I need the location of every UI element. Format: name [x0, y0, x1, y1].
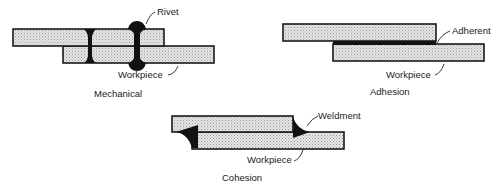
- weldment-label: Weldment: [318, 110, 361, 121]
- adhesion-workpiece-leader-line: [435, 64, 444, 75]
- joining-methods-diagram: Rivet Workpiece Mechanical Adherent Work…: [0, 0, 500, 191]
- mechanical-workpiece-label: Workpiece: [118, 69, 163, 80]
- rivet-label: Rivet: [157, 6, 179, 17]
- cohesion-caption: Cohesion: [222, 172, 262, 183]
- weldment-leader-line: [307, 116, 318, 126]
- mechanical-workpiece-leader-line: [168, 66, 178, 75]
- adhesion-workpiece-lower: [333, 44, 484, 61]
- cohesion-panel: Weldment Workpiece Cohesion: [172, 110, 361, 183]
- cohesion-workpiece-leader-line: [294, 150, 303, 161]
- cohesion-workpiece-label: Workpiece: [247, 154, 292, 165]
- adhesion-workpiece-upper: [283, 24, 436, 41]
- adhesion-workpiece-label: Workpiece: [386, 69, 431, 80]
- adhesion-panel: Adherent Workpiece Adhesion: [283, 24, 491, 97]
- adherent-leader-line: [437, 31, 450, 43]
- cohesion-workpiece-lower: [192, 132, 344, 149]
- adhesion-caption: Adhesion: [370, 86, 410, 97]
- mechanical-panel: Rivet Workpiece Mechanical: [13, 6, 214, 99]
- mechanical-caption: Mechanical: [94, 88, 142, 99]
- rivet-leader-line: [146, 12, 155, 24]
- adherent-label: Adherent: [452, 25, 491, 36]
